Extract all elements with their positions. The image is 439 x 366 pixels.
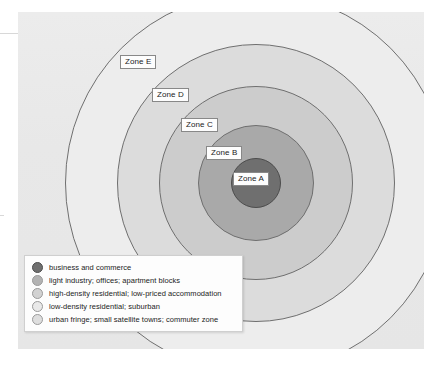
legend-item[interactable]: light industry; offices; apartment block…: [32, 274, 236, 287]
zone-label-a: Zone A: [233, 172, 269, 186]
legend-label: business and commerce: [49, 263, 131, 272]
zone-label-e: Zone E: [120, 55, 156, 69]
legend-swatch-circle-a: [32, 262, 43, 273]
legend-swatch-circle-e: [32, 314, 43, 325]
legend-swatch-circle-d: [32, 301, 43, 312]
legend-item[interactable]: low-density residential; suburban: [32, 300, 236, 313]
scan-edge-artefact-top: [0, 33, 18, 34]
legend: business and commerce light industry; of…: [24, 255, 243, 332]
zone-label-d: Zone D: [152, 88, 189, 102]
zone-label-c: Zone C: [181, 118, 218, 132]
legend-item[interactable]: urban fringe; small satellite towns; com…: [32, 313, 236, 326]
scan-edge-artefact-mid: [0, 215, 4, 216]
legend-label: light industry; offices; apartment block…: [49, 276, 180, 285]
legend-item[interactable]: high-density residential; low-priced acc…: [32, 287, 236, 300]
legend-label: low-density residential; suburban: [49, 302, 160, 311]
legend-label: urban fringe; small satellite towns; com…: [49, 315, 218, 324]
legend-label: high-density residential; low-priced acc…: [49, 289, 222, 298]
legend-item[interactable]: business and commerce: [32, 261, 236, 274]
legend-swatch-circle-c: [32, 288, 43, 299]
concentric-zone-diagram: Zone E Zone D Zone C Zone B Zone A busin…: [0, 0, 439, 366]
legend-swatch-circle-b: [32, 275, 43, 286]
zone-label-b: Zone B: [206, 146, 242, 160]
